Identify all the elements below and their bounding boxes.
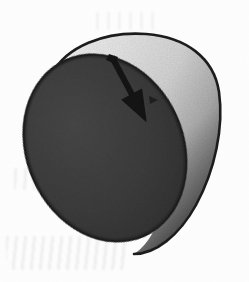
paper-grain-overlay — [0, 0, 249, 282]
figure-canvas: Cylindrical disc with direction arrow Sc… — [0, 0, 249, 282]
cylinder-diagram-svg: Cylindrical disc with direction arrow Sc… — [0, 0, 249, 282]
